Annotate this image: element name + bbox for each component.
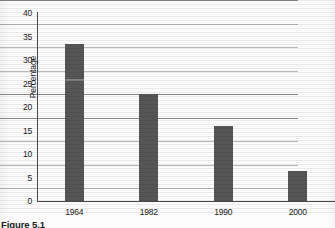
x-axis-tick-label-1964: 1964 bbox=[54, 207, 94, 217]
gridline bbox=[0, 0, 298, 1]
bar-2000 bbox=[288, 171, 307, 201]
figure-container: 0510152025303540 1964198219902000 Percen… bbox=[0, 0, 335, 228]
figure-caption: Figure 5.1 bbox=[1, 219, 45, 228]
x-axis-tick-label-1990: 1990 bbox=[203, 207, 243, 217]
bar-1982 bbox=[139, 94, 158, 201]
y-axis-tick-label: 15 bbox=[10, 127, 32, 135]
y-axis-tick-label: 10 bbox=[10, 150, 32, 158]
y-axis-tick-label: 40 bbox=[10, 9, 32, 17]
scan-artifact-band bbox=[65, 79, 84, 81]
y-axis-title: Percentage bbox=[28, 42, 38, 112]
y-axis-tick-label: 35 bbox=[10, 33, 32, 41]
y-axis-tick-label: 0 bbox=[10, 197, 32, 205]
y-axis-tick-label: 5 bbox=[10, 174, 32, 182]
x-axis-line bbox=[37, 201, 335, 202]
x-axis-tick-label-2000: 2000 bbox=[278, 207, 318, 217]
bar-1990 bbox=[214, 126, 233, 201]
x-axis-tick-label-1982: 1982 bbox=[129, 207, 169, 217]
bar-1964 bbox=[65, 44, 84, 201]
